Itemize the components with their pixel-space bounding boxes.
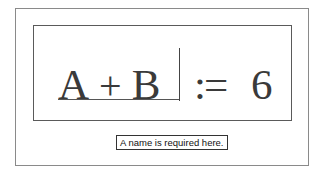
- variable-b: B: [132, 61, 161, 108]
- edit-cursor: [179, 48, 180, 101]
- definition-operator: :=: [194, 60, 226, 110]
- plus-operator: +: [99, 63, 122, 108]
- variable-a: A: [58, 61, 89, 108]
- selection-underline: [58, 99, 180, 100]
- definition-rhs[interactable]: 6: [251, 60, 273, 110]
- error-tooltip: A name is required here.: [116, 135, 228, 150]
- math-region[interactable]: A+B := 6: [33, 25, 292, 121]
- definition-lhs[interactable]: A+B: [58, 60, 160, 110]
